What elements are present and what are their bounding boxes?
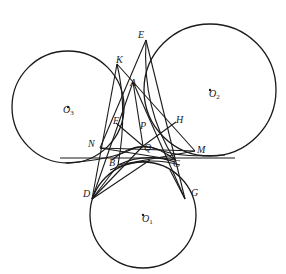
segment-f-q xyxy=(116,123,143,146)
label-a: A xyxy=(129,77,137,88)
label-h: H xyxy=(175,114,184,125)
label-b: B xyxy=(109,157,115,168)
label-o2: O2 xyxy=(209,88,220,101)
label-k: K xyxy=(115,54,124,65)
segment-e-n xyxy=(100,40,146,148)
label-o1: O1 xyxy=(142,213,153,226)
segment-a-d xyxy=(92,82,133,199)
label-e: E xyxy=(137,29,144,40)
label-q: Q xyxy=(144,142,152,153)
geometry-figure: K E A F P H N Q M B C D G O1 O2 O3 xyxy=(0,0,286,274)
label-f: F xyxy=(112,115,120,126)
label-g: G xyxy=(191,187,198,198)
segment-a-g xyxy=(133,82,185,199)
label-d: D xyxy=(82,188,91,199)
label-o3: O3 xyxy=(63,104,74,117)
label-n: N xyxy=(87,138,96,149)
label-p: P xyxy=(139,120,146,131)
segment-k-m xyxy=(117,64,195,151)
label-c: C xyxy=(173,158,180,169)
segment-d-b xyxy=(92,165,118,199)
label-m: M xyxy=(196,144,206,155)
